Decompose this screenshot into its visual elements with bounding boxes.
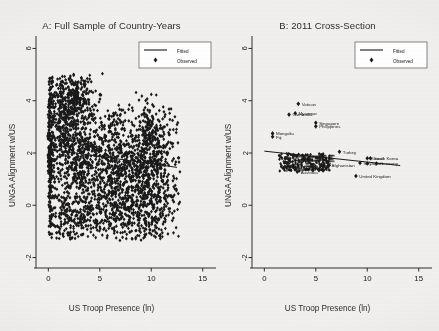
panel-b-y-tick-label: 2: [241, 151, 250, 155]
label-fiji: Fiji: [276, 135, 282, 140]
legend-fitted-label: Fitted: [393, 49, 405, 54]
label-myanmar: Myanmar: [299, 111, 318, 116]
panel-b-x-tick-label: 0: [262, 274, 267, 283]
panel-b-legend-box: [355, 42, 427, 68]
panel-b-plot-area: -20246051015VaticanCambodiaMyanmarSingap…: [218, 30, 437, 300]
panel-a-legend: FittedObserved: [139, 42, 211, 68]
panel-a-x-tick-label: 10: [147, 274, 156, 283]
panel-b-legend: FittedObserved: [355, 42, 427, 68]
panel-b-y-tick-label: 0: [241, 203, 250, 207]
panel-b-x-tick-label: 5: [314, 274, 319, 283]
panel-b-cross-section: B: 2011 Cross-Section UNGA Alignment w/U…: [218, 0, 437, 331]
point-fiji: [271, 134, 275, 139]
panel-a-y-tick-label: 0: [25, 203, 34, 207]
panel-a-x-tick-label: 15: [198, 274, 207, 283]
panel-b-axes: -20246051015: [241, 36, 433, 283]
point-united-kingdom: [354, 174, 358, 179]
panel-a-y-tick-label: 6: [25, 46, 34, 50]
label-philippines: Philippines: [319, 124, 341, 129]
panel-a-x-tick-label: 0: [46, 274, 51, 283]
label-vatican: Vatican: [302, 102, 317, 107]
legend-observed-label: Observed: [177, 59, 197, 64]
label-japan: Japan: [371, 161, 384, 166]
label-australia: Australia: [301, 170, 319, 175]
label-turkey: Turkey: [343, 150, 357, 155]
panel-a-full-sample: A: Full Sample of Country-Years UNGA Ali…: [2, 0, 221, 331]
panel-a-y-tick-label: -2: [25, 254, 34, 261]
point-vatican: [296, 102, 300, 107]
label-germany: Germany: [380, 161, 399, 166]
point-kuwait: [365, 156, 369, 161]
panel-a-plot-area: -20246051015FittedObserved: [2, 30, 221, 300]
legend-observed-label: Observed: [393, 59, 413, 64]
label-united-kingdom: United Kingdom: [359, 174, 391, 179]
label-afghanistan: Afghanistan: [332, 163, 356, 168]
panel-b-x-tick-label: 15: [414, 274, 423, 283]
point-philippines: [314, 124, 318, 129]
panel-b-y-tick-label: -2: [241, 254, 250, 261]
panel-a-legend-box: [139, 42, 211, 68]
panel-b-y-tick-label: 4: [241, 99, 250, 103]
panel-a-x-axis-title: US Troop Presence (ln): [2, 304, 221, 313]
panel-b-x-tick-label: 10: [363, 274, 372, 283]
point-turkey: [338, 149, 342, 154]
figure-two-panel-scatter: A: Full Sample of Country-Years UNGA Ali…: [0, 0, 439, 331]
panel-b-y-tick-label: 6: [241, 46, 250, 50]
panel-a-observed-points: [46, 72, 181, 242]
panel-a-x-tick-label: 5: [98, 274, 103, 283]
panel-a-y-tick-label: 4: [25, 99, 34, 103]
panel-a-y-tick-label: 2: [25, 151, 34, 155]
point-cambodia: [287, 112, 291, 117]
panel-b-x-axis-title: US Troop Presence (ln): [218, 304, 437, 313]
legend-fitted-label: Fitted: [177, 49, 189, 54]
